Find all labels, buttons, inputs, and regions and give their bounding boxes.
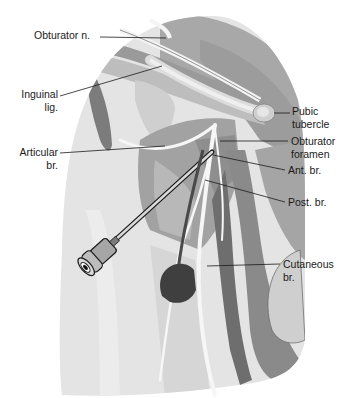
label-text: foramen [291, 148, 335, 161]
label-text: Obturator n. [34, 29, 90, 42]
label-posterior-branch: Post. br. [288, 196, 327, 209]
label-pubic-tubercle: Pubic tubercle [292, 105, 329, 131]
label-text: Inguinal [20, 88, 58, 101]
label-text: br. [283, 271, 334, 284]
label-text: Ant. br. [288, 164, 321, 177]
label-text: Cutaneous [283, 258, 334, 271]
label-text: Post. br. [288, 196, 327, 209]
label-text: lig. [20, 101, 58, 114]
label-text: Articular [10, 146, 58, 159]
label-cutaneous-branch: Cutaneous br. [283, 258, 334, 284]
label-text: br. [10, 159, 58, 172]
label-articular-branch: Articular br. [10, 146, 58, 172]
label-obturator-foramen: Obturator foramen [291, 135, 335, 161]
label-obturator-nerve: Obturator n. [34, 29, 90, 42]
label-text: Pubic [292, 105, 329, 118]
label-inguinal-ligament: Inguinal lig. [20, 88, 58, 114]
label-text: Obturator [291, 135, 335, 148]
label-anterior-branch: Ant. br. [288, 164, 321, 177]
label-text: tubercle [292, 118, 329, 131]
